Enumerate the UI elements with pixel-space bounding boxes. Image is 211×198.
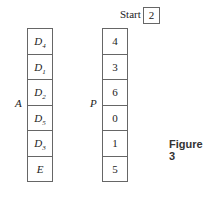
array-a-cell: E [28, 157, 52, 182]
array-a: D4 D1 D2 D5 D3 E [27, 28, 53, 182]
array-p-cell: 3 [103, 55, 127, 81]
array-a-cell: D3 [28, 131, 52, 157]
array-a-cell: D2 [28, 80, 52, 106]
array-a-cell: D5 [28, 106, 52, 132]
array-a-cell: D1 [28, 55, 52, 81]
array-p-cell: 1 [103, 131, 127, 157]
start-value-box: 2 [143, 7, 160, 24]
array-a-label: A [15, 97, 22, 109]
array-a-cell: D4 [28, 29, 52, 55]
array-p-cell: 5 [103, 157, 127, 182]
array-p-label: P [90, 97, 97, 109]
start-label: Start [120, 8, 141, 20]
array-p: 4 3 6 0 1 5 [102, 28, 128, 182]
array-p-cell: 6 [103, 80, 127, 106]
array-p-cell: 4 [103, 29, 127, 55]
array-p-cell: 0 [103, 106, 127, 132]
figure-caption: Figure 3 [169, 138, 211, 162]
